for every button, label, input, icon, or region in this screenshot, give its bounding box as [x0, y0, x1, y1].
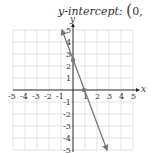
x-tick-labels: -5 -4 -3 -2 -1 1 2 3 4 5: [8, 92, 136, 101]
svg-text:-2: -2: [44, 92, 52, 101]
svg-text:-2: -2: [63, 110, 71, 119]
svg-text:-5: -5: [8, 92, 16, 101]
svg-text:1: 1: [66, 74, 71, 83]
svg-text:2: 2: [95, 92, 100, 101]
axes: [13, 24, 139, 152]
svg-text:-4: -4: [63, 134, 71, 143]
svg-text:2: 2: [66, 62, 71, 71]
svg-text:4: 4: [119, 92, 124, 101]
svg-text:3: 3: [107, 92, 112, 101]
x-axis-label: x: [141, 84, 146, 94]
y-intercept-point: [71, 58, 75, 62]
coordinate-graph: x y -5 -4 -3 -2 -1 1 2 3 4 5 5 4 3 2 1 -…: [0, 0, 151, 154]
svg-text:-1: -1: [63, 98, 71, 107]
x-intercept-point: [82, 88, 86, 92]
svg-text:-3: -3: [63, 122, 71, 131]
svg-text:-4: -4: [20, 92, 28, 101]
y-axis-label: y: [69, 14, 76, 24]
svg-text:5: 5: [131, 92, 136, 101]
svg-text:-5: -5: [63, 146, 71, 154]
svg-text:-3: -3: [32, 92, 40, 101]
svg-text:5: 5: [66, 26, 71, 35]
